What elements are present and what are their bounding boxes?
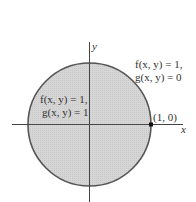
outside-label-line1: f(x, y) = 1, (135, 58, 183, 71)
disk-diagram: y x (1, 0) f(x, y) = 1, g(x, y) = 1 f(x,… (0, 0, 196, 202)
point-label: (1, 0) (153, 111, 177, 124)
outside-label-line2: g(x, y) = 0 (135, 71, 182, 84)
y-axis-label: y (91, 40, 97, 52)
inside-label-line2: g(x, y) = 1 (42, 106, 89, 119)
inside-label-line1: f(x, y) = 1, (40, 93, 88, 106)
point-marker (149, 123, 153, 127)
x-axis-label: x (180, 123, 186, 135)
